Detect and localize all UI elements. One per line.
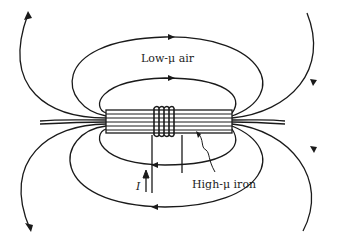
arrow-top-middle [168,34,175,40]
label-low-mu-air: Low-μ air [141,52,194,65]
field-line-bottom-left-outer [21,124,106,229]
iron-pointer [197,132,215,172]
field-diagram [0,0,337,241]
field-line-top-right-outer [232,13,314,118]
arrow-bottom-middle [151,204,158,210]
arrow-top-inner [168,75,175,81]
arrow-top-right-outer [310,79,317,86]
field-line-top-middle [72,37,263,116]
label-current: I [136,180,140,193]
field-line-bottom-inner [100,129,236,165]
field-line-top-left-outer [20,14,106,118]
field-line-top-inner [100,78,236,113]
arrow-top-left-outer [24,11,32,20]
label-high-mu-iron: High-μ iron [192,178,256,191]
arrow-bottom-left-outer [25,223,33,232]
current-arrow [143,170,149,192]
arrow-bottom-right-outer [310,146,317,153]
